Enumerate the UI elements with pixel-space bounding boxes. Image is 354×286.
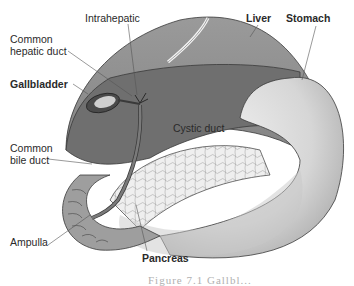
label-common-bile-duct-line1: Common xyxy=(10,142,53,154)
label-common-bile-duct-line2: bile duct xyxy=(10,154,49,166)
label-ampulla: Ampulla xyxy=(10,236,48,248)
label-pancreas: Pancreas xyxy=(142,252,189,264)
label-intrahepatic: Intrahepatic xyxy=(85,12,140,24)
label-liver: Liver xyxy=(246,12,271,24)
figure-caption-fragment: Figure 7.1 Gallbl... xyxy=(148,274,252,286)
label-stomach: Stomach xyxy=(286,12,330,24)
label-common-hepatic-duct-line1: Common xyxy=(10,33,53,45)
label-cystic-duct: Cystic duct xyxy=(173,122,224,134)
label-common-hepatic-duct-line2: hepatic duct xyxy=(10,45,67,57)
label-gallbladder: Gallbladder xyxy=(10,78,68,90)
